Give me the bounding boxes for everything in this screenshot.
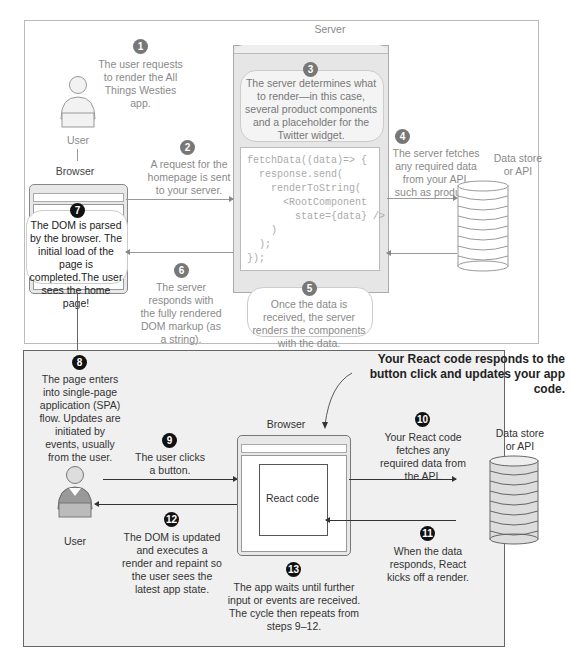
code-line: response.send( — [247, 168, 379, 182]
api-response-arrow — [326, 520, 456, 521]
fetch-data-arrow — [387, 198, 457, 199]
datastore-label-top: Data store or API — [488, 152, 548, 178]
response-arrow — [126, 252, 233, 253]
react-callout: Your React code responds to the button c… — [350, 352, 565, 397]
database-icon-top — [457, 180, 509, 272]
code-line: }); — [247, 252, 379, 266]
step-10-text: Your React code fetches any required dat… — [380, 431, 466, 483]
browser-label-bottom: Browser — [256, 418, 316, 431]
step-11-text: When the data responds, React kicks off … — [385, 545, 471, 584]
step-7-badge: 7 — [70, 203, 85, 218]
request-arrow — [126, 199, 233, 200]
step-3-badge: 3 — [303, 62, 318, 77]
user-label: User — [58, 134, 98, 147]
step-2-text: A request for the homepage is sent to yo… — [142, 158, 236, 197]
code-line: fetchData((data)=> { — [247, 154, 379, 168]
code-line: ); — [247, 238, 379, 252]
user-label-bottom: User — [55, 535, 95, 548]
step-1-text: The user requests to render the All Thin… — [98, 58, 183, 110]
step-9-text: The user clicks a button. — [134, 451, 206, 477]
step-9-badge: 9 — [162, 433, 177, 448]
user-icon-bottom — [55, 465, 95, 527]
step-4-badge: 4 — [395, 129, 410, 144]
callout-curve-arrow — [320, 370, 360, 430]
browser-label-top: Browser — [30, 165, 120, 178]
step-7-text: The DOM is parsed by the browser. The in… — [28, 219, 124, 310]
code-line: renderToString( — [247, 182, 379, 196]
datastore-label-bottom: Data store or API — [490, 427, 550, 453]
data-return-arrow — [387, 253, 457, 254]
step-6-badge: 6 — [174, 263, 189, 278]
click-arrow — [103, 479, 237, 480]
step-6-text: The server responds with the fully rende… — [140, 281, 222, 346]
step-5-badge: 5 — [302, 281, 317, 296]
step-13-text: The app waits until further input or eve… — [226, 581, 362, 633]
step-10-badge: 10 — [415, 412, 430, 427]
step-3-text: The server determines what to render—in … — [244, 77, 378, 142]
step-13-badge: 13 — [286, 562, 301, 577]
step-1-badge: 1 — [133, 39, 148, 54]
step-11-badge: 11 — [420, 526, 435, 541]
code-line: ) — [247, 224, 379, 238]
react-code-label: React code — [259, 492, 326, 505]
top-to-bottom-connector — [77, 292, 78, 350]
code-block: fetchData((data)=> { response.send( rend… — [240, 147, 380, 271]
step-2-badge: 2 — [180, 140, 195, 155]
step-5-text: Once the data is received, the server re… — [250, 298, 368, 350]
database-icon-bottom — [489, 455, 539, 545]
code-line: <RootComponent — [247, 196, 379, 210]
step-12-text: The DOM is updated and executes a render… — [120, 531, 224, 596]
user-to-browser-connector — [77, 149, 78, 161]
step-8-badge: 8 — [72, 355, 87, 370]
code-line: state={data} /> — [247, 210, 379, 224]
step-8-text: The page enters into single-page applica… — [38, 373, 122, 464]
step-12-badge: 12 — [164, 512, 179, 527]
repaint-arrow — [95, 504, 237, 505]
user-icon — [58, 75, 98, 133]
server-label: Server — [290, 23, 370, 36]
